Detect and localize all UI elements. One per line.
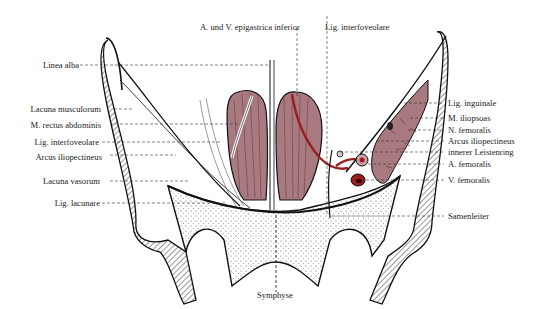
label-arcus-iliopectineus-left: Arcus iliopectineus bbox=[35, 152, 102, 162]
label-lacuna-musculorum: Lacuna musculorum bbox=[31, 104, 101, 114]
label-m-iliopsoas: M. iliopsoas bbox=[448, 113, 491, 123]
label-linea-alba: Linea alba bbox=[43, 60, 79, 70]
label-lig-lacunare: Lig. lacunare bbox=[55, 198, 100, 208]
label-v-femoralis: V. femoralis bbox=[448, 175, 490, 185]
label-lacuna-vasorum: Lacuna vasorum bbox=[43, 176, 100, 186]
label-interfoveolare-top: Lig. interfoveolare bbox=[325, 22, 389, 32]
left-iliac-wing bbox=[101, 40, 196, 304]
label-a-femoralis: A. femoralis bbox=[448, 159, 491, 169]
label-n-femoralis: N. femoralis bbox=[448, 125, 491, 135]
femoral-nerve bbox=[387, 122, 393, 130]
label-lig-interfoveolare: Lig. interfoveolare bbox=[35, 137, 99, 147]
label-symphyse: Symphyse bbox=[257, 290, 293, 300]
label-lig-inguinale: Lig. inguinale bbox=[448, 98, 496, 108]
label-arcus-iliopectineus-right: Arcus iliopectineus bbox=[448, 136, 515, 146]
label-m-rectus-abdominis: M. rectus abdominis bbox=[31, 120, 101, 130]
label-samenleiter: Samenleiter bbox=[448, 211, 489, 221]
label-epigastrica: A. und V. epigastrica inferior bbox=[200, 22, 300, 32]
label-innerer-leistenring: innerer Leistenring bbox=[448, 147, 514, 157]
iliopsoas bbox=[372, 80, 428, 183]
